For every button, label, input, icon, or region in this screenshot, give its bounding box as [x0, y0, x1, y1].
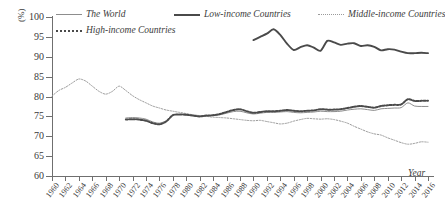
- x-axis-tick: [106, 176, 107, 181]
- legend-item-the-world: The World: [56, 9, 126, 19]
- y-axis-tick-label: 65: [0, 151, 44, 161]
- x-axis-tick: [200, 176, 201, 181]
- x-axis-tick: [388, 176, 389, 181]
- series-line-middle-income-countries: [52, 79, 428, 144]
- x-axis-tick: [321, 176, 322, 181]
- x-axis-tick: [267, 176, 268, 181]
- legend-label-low-income-countries: Low-income Countries: [204, 9, 291, 19]
- y-axis-tick-label: 90: [0, 52, 44, 62]
- y-axis-tick: [46, 57, 52, 58]
- y-axis-tick-label: 100: [0, 12, 44, 22]
- y-axis-tick-label: 95: [0, 32, 44, 42]
- y-axis-tick: [46, 77, 52, 78]
- y-axis-tick: [46, 17, 52, 18]
- series-line-the-world: [126, 103, 428, 123]
- legend-line-sample-low-income: [174, 11, 200, 18]
- y-axis-tick: [46, 116, 52, 117]
- legend-label-high-income-countries: High-income Countries: [86, 25, 175, 35]
- x-axis-tick: [133, 176, 134, 181]
- legend-item-middle-income-countries: Middle-income Countries: [318, 9, 445, 19]
- legend-label-middle-income-countries: Middle-income Countries: [348, 9, 445, 19]
- x-axis-line: [52, 176, 434, 177]
- y-axis-tick-label: 80: [0, 92, 44, 102]
- x-axis-title: Year: [408, 168, 425, 178]
- y-axis-tick: [46, 156, 52, 157]
- chart-legend: The World Low-income Countries Middle-in…: [56, 9, 442, 41]
- legend-line-sample-high-income: [56, 27, 82, 34]
- legend-line-sample-middle-income: [318, 11, 344, 18]
- legend-item-high-income-countries: High-income Countries: [56, 25, 175, 35]
- y-axis-tick-label: 75: [0, 111, 44, 121]
- legend-label-the-world: The World: [86, 9, 126, 19]
- y-axis-tick: [46, 136, 52, 137]
- x-axis-tick: [361, 176, 362, 181]
- y-axis-line: [52, 16, 53, 177]
- y-axis-tick: [46, 97, 52, 98]
- series-line-high-income-countries: [126, 99, 428, 124]
- x-axis-tick: [227, 176, 228, 181]
- legend-line-sample-the-world: [56, 11, 82, 18]
- x-axis-tick: [79, 176, 80, 181]
- y-axis-tick: [46, 37, 52, 38]
- y-axis-tick-label: 70: [0, 131, 44, 141]
- y-axis-tick-label: 85: [0, 72, 44, 82]
- legend-item-low-income-countries: Low-income Countries: [174, 9, 291, 19]
- x-axis-tick: [173, 176, 174, 181]
- x-axis-tick: [415, 176, 416, 181]
- y-axis-tick-label: 60: [0, 171, 44, 181]
- x-axis-tick: [294, 176, 295, 181]
